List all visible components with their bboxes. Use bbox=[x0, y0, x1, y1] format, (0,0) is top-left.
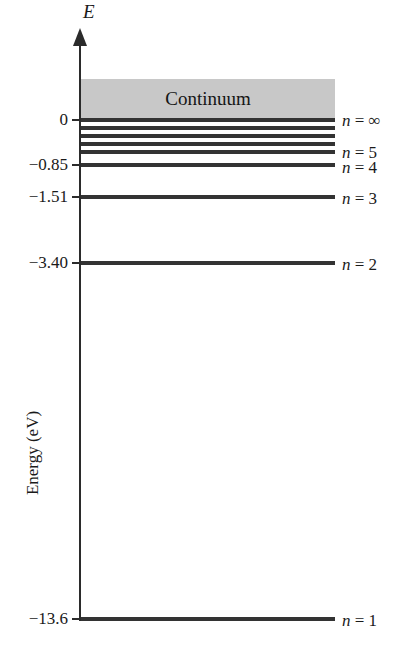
y-axis-tick-label: −3.40 bbox=[2, 254, 68, 271]
quantum-number-symbol: n bbox=[342, 158, 351, 177]
energy-level-line bbox=[81, 150, 335, 154]
y-axis-tick-mark bbox=[72, 196, 81, 198]
quantum-number-symbol: n bbox=[342, 611, 351, 630]
y-axis-tick-mark bbox=[72, 262, 81, 264]
y-axis-tick-label: 0 bbox=[2, 111, 68, 128]
y-axis-tick-mark bbox=[72, 164, 81, 166]
quantum-number-label: n = 3 bbox=[342, 190, 377, 207]
y-axis-title: Energy (eV) bbox=[23, 373, 43, 533]
energy-level-line bbox=[81, 163, 335, 167]
quantum-number-label: n = 4 bbox=[342, 159, 377, 176]
energy-level-line bbox=[81, 261, 335, 265]
quantum-number-label: n = ∞ bbox=[342, 112, 381, 129]
quantum-number-label: n = 2 bbox=[342, 256, 377, 273]
energy-level-diagram: E Energy (eV) Continuum 0−0.85−1.51−3.40… bbox=[0, 0, 401, 646]
y-axis-tick-label: −1.51 bbox=[2, 188, 68, 205]
quantum-number-symbol: n bbox=[342, 111, 351, 130]
y-axis-tick-mark bbox=[72, 119, 81, 121]
axis-arrowhead-icon bbox=[73, 28, 87, 46]
quantum-number-label: n = 1 bbox=[342, 612, 377, 629]
continuum-label: Continuum bbox=[81, 88, 335, 110]
energy-level-line bbox=[81, 134, 335, 138]
energy-level-line bbox=[81, 142, 335, 146]
energy-level-line bbox=[81, 195, 335, 199]
quantum-number-symbol: n bbox=[342, 255, 351, 274]
energy-level-line bbox=[81, 126, 335, 130]
y-axis-tick-label: −13.6 bbox=[2, 610, 68, 627]
energy-level-line bbox=[81, 118, 335, 122]
y-axis-tick-mark bbox=[72, 618, 81, 620]
quantum-number-symbol: n bbox=[342, 189, 351, 208]
energy-level-line bbox=[81, 617, 335, 621]
axis-symbol-E: E bbox=[83, 2, 95, 21]
y-axis-tick-label: −0.85 bbox=[2, 156, 68, 173]
